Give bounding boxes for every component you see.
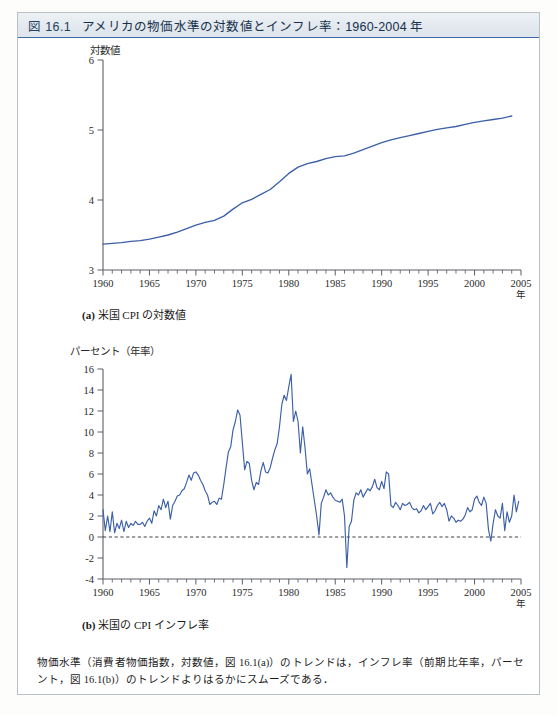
panel-a-caption-text: 米国 CPI の対数値 — [98, 309, 187, 321]
svg-text:2000: 2000 — [464, 587, 485, 598]
svg-text:年: 年 — [516, 598, 526, 609]
panel-b-caption-text: 米国の CPI インフレ率 — [98, 619, 209, 631]
svg-text:1980: 1980 — [278, 587, 299, 598]
panel-a-caption: (a) 米国 CPI の対数値 — [82, 306, 186, 322]
svg-text:1985: 1985 — [325, 587, 346, 598]
svg-text:1980: 1980 — [278, 278, 299, 289]
svg-text:4: 4 — [89, 195, 95, 206]
svg-text:2000: 2000 — [464, 278, 485, 289]
svg-text:1975: 1975 — [232, 587, 253, 598]
chart-panel-b: パーセント（年率）-4-2024681012141619601965197019… — [18, 343, 539, 621]
svg-text:1965: 1965 — [139, 278, 160, 289]
svg-text:10: 10 — [84, 427, 95, 438]
svg-text:12: 12 — [84, 406, 95, 417]
svg-text:1960: 1960 — [93, 587, 114, 598]
svg-text:2005: 2005 — [511, 278, 532, 289]
svg-text:6: 6 — [89, 55, 94, 66]
svg-text:対数値: 対数値 — [90, 44, 121, 56]
svg-text:6: 6 — [89, 469, 94, 480]
svg-text:年: 年 — [516, 289, 526, 300]
svg-text:1970: 1970 — [185, 278, 206, 289]
svg-text:1990: 1990 — [371, 278, 392, 289]
figure-body: 対数値3456196019651970197519801985199019952… — [18, 38, 539, 694]
figure-note: 物価水準（消費者物価指数，対数値，図 16.1(a)）のトレンドは，インフレ率（… — [37, 654, 524, 688]
figure-title: アメリカの物価水準の対数値とインフレ率：1960-2004 年 — [82, 16, 423, 35]
svg-text:1985: 1985 — [325, 278, 346, 289]
svg-text:1995: 1995 — [418, 278, 439, 289]
svg-text:-4: -4 — [85, 574, 94, 585]
cpi-log-level-chart: 対数値3456196019651970197519801985199019952… — [18, 42, 539, 312]
svg-text:3: 3 — [89, 265, 94, 276]
svg-text:1995: 1995 — [418, 587, 439, 598]
svg-text:パーセント（年率）: パーセント（年率） — [70, 345, 160, 357]
figure-box: 図 16.1 アメリカの物価水準の対数値とインフレ率：1960-2004 年 対… — [17, 12, 540, 695]
svg-text:16: 16 — [84, 364, 95, 375]
cpi-inflation-chart: パーセント（年率）-4-2024681012141619601965197019… — [18, 343, 539, 621]
svg-text:1975: 1975 — [232, 278, 253, 289]
svg-text:1970: 1970 — [185, 587, 206, 598]
panel-a-caption-tag: (a) — [82, 309, 95, 321]
panel-b-caption: (b) 米国の CPI インフレ率 — [82, 616, 209, 632]
svg-text:1990: 1990 — [371, 587, 392, 598]
figure-header: 図 16.1 アメリカの物価水準の対数値とインフレ率：1960-2004 年 — [18, 13, 539, 38]
svg-text:5: 5 — [89, 125, 94, 136]
figure-page: 図 16.1 アメリカの物価水準の対数値とインフレ率：1960-2004 年 対… — [0, 0, 557, 715]
svg-text:14: 14 — [84, 385, 95, 396]
svg-text:1965: 1965 — [139, 587, 160, 598]
svg-text:2005: 2005 — [511, 587, 532, 598]
svg-text:4: 4 — [89, 490, 95, 501]
svg-text:0: 0 — [89, 532, 94, 543]
figure-number: 図 16.1 — [28, 16, 71, 35]
svg-text:-2: -2 — [85, 553, 94, 564]
chart-panel-a: 対数値3456196019651970197519801985199019952… — [18, 42, 539, 312]
svg-text:1960: 1960 — [93, 278, 114, 289]
panel-b-caption-tag: (b) — [82, 619, 95, 631]
svg-text:2: 2 — [89, 511, 94, 522]
svg-text:8: 8 — [89, 448, 94, 459]
